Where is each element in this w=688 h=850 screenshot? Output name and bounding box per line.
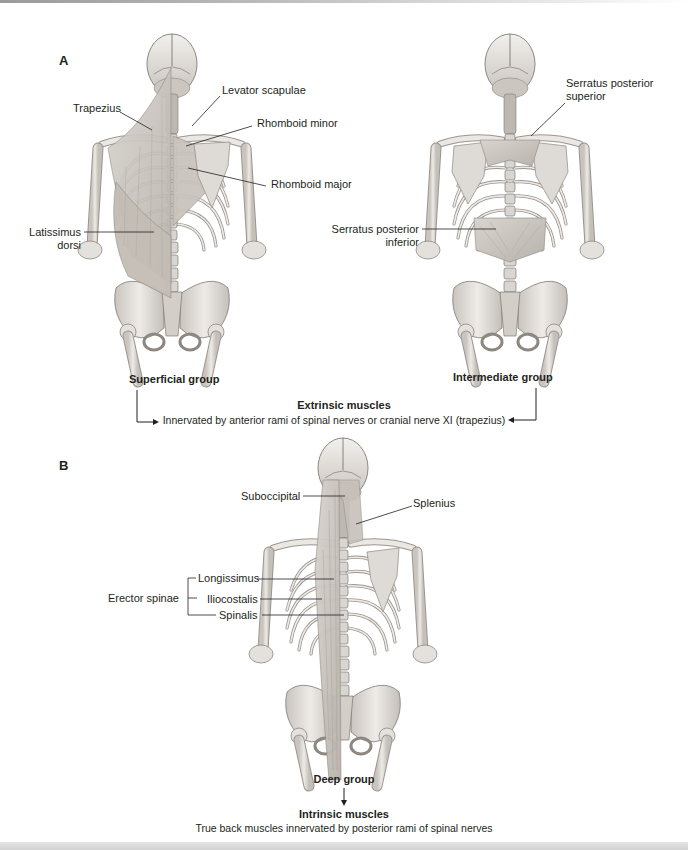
label-latissimus-line1: Latissimus bbox=[24, 226, 81, 239]
label-splenius: Splenius bbox=[413, 497, 455, 510]
label-serratus-inf-line1: Serratus posterior bbox=[320, 223, 419, 236]
caption-deep-group: Deep group bbox=[284, 773, 404, 786]
label-serratus-posterior-superior: Serratus posterior superior bbox=[566, 77, 653, 103]
intrinsic-muscles-description: True back muscles innervated by posterio… bbox=[184, 822, 504, 835]
label-serratus-posterior-inferior: Serratus posterior inferior bbox=[320, 223, 419, 249]
panel-letter-a: A bbox=[59, 53, 68, 68]
caption-intermediate-group: Intermediate group bbox=[453, 371, 553, 384]
label-rhomboid-minor: Rhomboid minor bbox=[257, 117, 338, 130]
label-latissimus-dorsi: Latissimus dorsi bbox=[24, 226, 81, 252]
label-serratus-sup-line1: Serratus posterior bbox=[566, 77, 653, 90]
label-rhomboid-major: Rhomboid major bbox=[271, 178, 352, 191]
label-trapezius: Trapezius bbox=[73, 102, 121, 115]
label-suboccipital: Suboccipital bbox=[241, 490, 300, 503]
intrinsic-muscles-title: Intrinsic muscles bbox=[264, 808, 424, 821]
label-serratus-inf-line2: inferior bbox=[320, 236, 419, 249]
label-erector-spinae: Erector spinae bbox=[108, 592, 179, 605]
label-serratus-sup-line2: superior bbox=[566, 90, 653, 103]
label-iliocostalis: Iliocostalis bbox=[207, 593, 258, 606]
extrinsic-muscles-title: Extrinsic muscles bbox=[244, 399, 444, 412]
panel-letter-b: B bbox=[59, 458, 68, 473]
bottom-edge-bar bbox=[0, 842, 688, 850]
label-levator-scapulae: Levator scapulae bbox=[222, 84, 306, 97]
label-longissimus: Longissimus bbox=[198, 572, 259, 585]
extrinsic-muscles-description: Innervated by anterior rami of spinal ne… bbox=[160, 414, 508, 427]
label-latissimus-line2: dorsi bbox=[24, 239, 81, 252]
label-spinalis: Spinalis bbox=[219, 609, 258, 622]
caption-superficial-group: Superficial group bbox=[129, 373, 219, 386]
